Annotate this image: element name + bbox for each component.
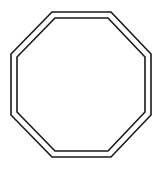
inner-octagon-outline (17, 18, 145, 151)
outer-octagon-outline (11, 12, 151, 157)
octagon-svg (0, 0, 165, 169)
octagon-diagram (0, 0, 165, 169)
